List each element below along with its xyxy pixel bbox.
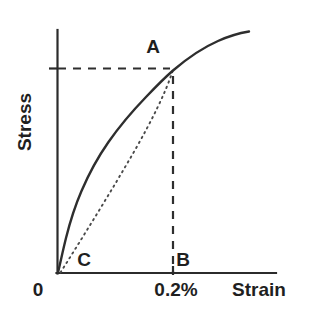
x-axis-title: Strain	[232, 279, 286, 300]
axes-group	[57, 30, 277, 274]
stress-strain-chart: A B C 0 0.2% Strain Stress	[0, 0, 318, 321]
origin-label: 0	[33, 279, 44, 300]
x-tick-label-0.2-percent: 0.2%	[154, 279, 197, 300]
point-c-label: C	[77, 249, 91, 270]
tick-labels-group: 0 0.2%	[33, 279, 198, 300]
stress-strain-figure: A B C 0 0.2% Strain Stress	[0, 0, 318, 321]
point-a-label: A	[146, 36, 160, 57]
guide-lines-group	[58, 69, 173, 273]
tick-marks-group	[49, 69, 173, 276]
offset-line-dotted	[61, 72, 173, 273]
point-b-label: B	[176, 249, 190, 270]
y-axis-title: Stress	[14, 93, 35, 151]
